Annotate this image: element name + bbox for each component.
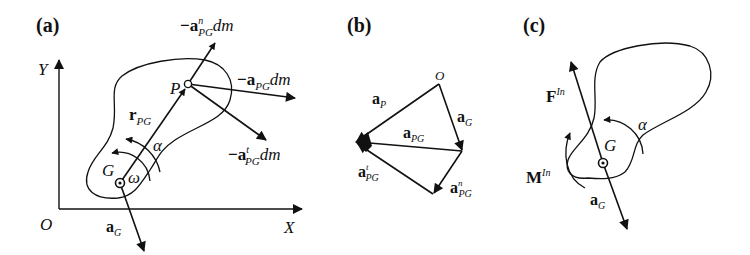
inertia-force-label: FIn xyxy=(546,86,565,106)
a-g-label: aG xyxy=(106,218,121,238)
y-axis-label: Y xyxy=(38,60,49,79)
panel-c: (c) FIn α MIn aG G xyxy=(523,14,711,229)
figure-canvas: (a) Y O X rPG −anPGdm −aPGdm −atPGdm P xyxy=(0,0,750,255)
minus-a-pg-label: −aPGdm xyxy=(237,70,291,92)
a-g-label-b: aG xyxy=(457,108,472,128)
point-p-marker xyxy=(184,80,191,87)
point-g-center-c xyxy=(601,161,604,164)
a-t-pg-vector xyxy=(358,144,433,194)
rigid-body-outline-c xyxy=(567,43,711,179)
panel-a: (a) Y O X rPG −anPGdm −aPGdm −atPGdm P xyxy=(36,14,302,251)
point-g-label: G xyxy=(102,161,114,180)
origin-label: O xyxy=(40,215,52,234)
a-p-label: aP xyxy=(372,90,386,110)
a-g-label-c: aG xyxy=(590,191,605,211)
a-n-pg-label: anPG xyxy=(450,178,472,199)
panel-b: (b) O aP aG aPG anPG atPG xyxy=(347,14,472,199)
x-axis-label: X xyxy=(283,218,295,237)
point-g-center xyxy=(118,181,121,184)
alpha-label-c: α xyxy=(638,115,648,134)
omega-label: ω xyxy=(128,168,140,187)
origin-o-label: O xyxy=(435,68,445,83)
panel-c-label: (c) xyxy=(523,14,545,37)
a-pg-label: aPG xyxy=(403,124,424,144)
alpha-label: α xyxy=(153,136,163,155)
panel-a-label: (a) xyxy=(36,14,59,37)
point-p-label: P xyxy=(169,79,180,98)
minus-a-n-pg-vector xyxy=(188,43,215,84)
minus-a-n-pg-label: −anPGdm xyxy=(180,15,234,38)
panel-b-label: (b) xyxy=(347,14,371,37)
r-pg-label: rPG xyxy=(129,105,151,127)
tip-junction-marker xyxy=(355,132,372,152)
a-pg-vector xyxy=(358,142,462,151)
point-g-label-c: G xyxy=(604,136,616,155)
a-t-pg-label: atPG xyxy=(358,162,379,183)
a-p-vector xyxy=(357,84,439,141)
minus-a-t-pg-label: −atPGdm xyxy=(228,144,280,167)
inertia-moment-label: MIn xyxy=(526,167,550,187)
